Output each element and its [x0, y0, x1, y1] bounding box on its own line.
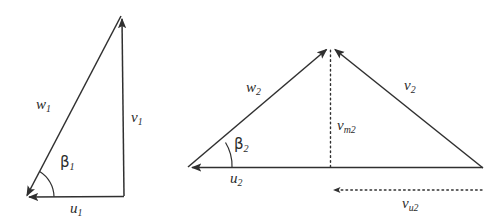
angle-beta2-arc [226, 143, 233, 168]
angle-beta1-arc [40, 171, 54, 196]
label-vm2: vm2 [337, 118, 356, 133]
vector-v2-line [335, 50, 483, 169]
label-v2: v2 [404, 78, 416, 93]
triangle-2-group [188, 50, 483, 191]
label-u1: u1 [70, 201, 82, 216]
vector-v1-line [122, 19, 124, 196]
vector-u1-line [29, 197, 124, 198]
velocity-triangles-figure: w1 v1 u1 β1 w2 v2 u2 β2 vm2 vu2 [0, 0, 501, 221]
label-w1: w1 [36, 97, 51, 112]
label-v1: v1 [131, 110, 143, 125]
label-beta1: β1 [60, 155, 75, 170]
vector-w2-line [188, 50, 327, 168]
label-u2: u2 [230, 171, 242, 186]
label-beta2: β2 [234, 137, 249, 152]
label-vu2: vu2 [402, 196, 419, 211]
diagram-canvas [0, 0, 501, 221]
label-w2: w2 [246, 80, 261, 95]
